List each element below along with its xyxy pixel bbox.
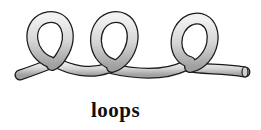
- rope-loops-icon: [0, 0, 261, 95]
- caption-label: loops: [0, 98, 261, 123]
- loops-illustration-figure: loops: [0, 0, 261, 130]
